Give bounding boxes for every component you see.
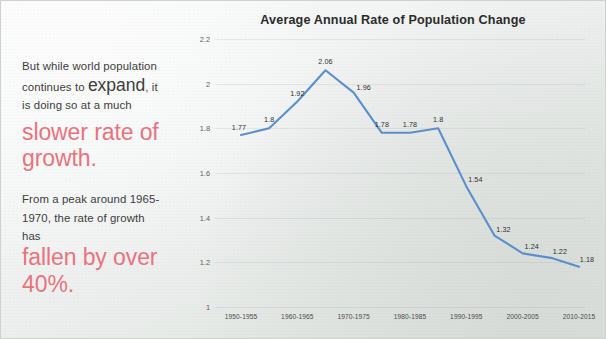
highlight-fallen-line-1: fallen by over (22, 244, 202, 271)
intro-line-2-prefix: continues to (22, 81, 88, 93)
y-tick-label: 1.6 (200, 169, 210, 178)
data-label: 1.78 (403, 120, 417, 129)
highlight-slower-rate-line-2: growth. (22, 145, 188, 172)
intro-line-1: But while world population (22, 57, 188, 76)
y-tick-label: 1.8 (200, 124, 210, 133)
y-tick-label: 1.4 (200, 213, 210, 222)
x-tick-label: 2000-2005 (506, 313, 538, 320)
data-label: 1.77 (232, 123, 246, 132)
y-tick-label: 2.2 (200, 35, 210, 44)
x-tick-label: 1970-1975 (337, 313, 369, 320)
slide-canvas: But while world population continues to … (0, 0, 606, 339)
data-label: 1.8 (433, 115, 443, 124)
peak-line-1: From a peak around 1965- (22, 190, 190, 209)
highlight-slower-rate-line-1: slower rate of (22, 119, 188, 146)
data-label: 1.24 (524, 242, 538, 251)
intro-line-2: continues to expand, it (22, 76, 188, 97)
data-label: 1.78 (375, 120, 389, 129)
x-tick-label: 1990-1995 (450, 313, 482, 320)
x-tick-label: 1960-1965 (281, 313, 313, 320)
y-tick-label: 1.2 (200, 258, 210, 267)
population-rate-chart: Average Annual Rate of Population Change… (187, 9, 599, 334)
intro-paragraph: But while world population continues to … (22, 57, 188, 115)
data-label: 1.32 (496, 225, 510, 234)
left-text-column: But while world population continues to … (22, 57, 188, 172)
data-label: 1.96 (356, 83, 370, 92)
highlight-fallen-line-2: 40%. (22, 271, 202, 298)
highlight-slower-rate: slower rate of growth. (22, 119, 188, 172)
highlight-fallen-by-over: fallen by over 40%. (22, 244, 202, 297)
chart-line-series (215, 39, 585, 307)
data-label: 2.06 (318, 57, 332, 66)
data-label: 1.92 (290, 89, 304, 98)
data-label: 1.18 (580, 255, 594, 264)
data-label: 1.8 (264, 115, 274, 124)
x-tick-label: 1950-1955 (225, 313, 257, 320)
gridline-1 (215, 307, 585, 308)
peak-line-2: 1970, the rate of growth (22, 209, 190, 228)
intro-line-2-suffix: , it (145, 81, 157, 93)
data-label: 1.22 (553, 247, 567, 256)
y-tick-label: 2 (206, 79, 210, 88)
intro-line-3: is doing so at a much (22, 96, 188, 115)
emphasis-word-expand: expand (88, 75, 145, 95)
y-tick-label: 1 (206, 303, 210, 312)
chart-plot-area: 11.21.41.61.822.2 1.771.81.922.061.961.7… (215, 39, 585, 307)
peak-paragraph: From a peak around 1965- 1970, the rate … (22, 190, 190, 246)
peak-line-3: has (22, 227, 190, 246)
x-tick-label: 1980-1985 (394, 313, 426, 320)
data-label: 1.54 (468, 175, 482, 184)
x-tick-label: 2010-2015 (563, 313, 595, 320)
chart-title: Average Annual Rate of Population Change (187, 13, 599, 27)
